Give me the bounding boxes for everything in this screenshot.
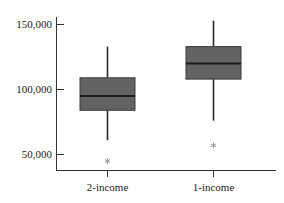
- box-plot-figure: 150,000 100,000 50,000: [0, 0, 284, 203]
- y-tick-label-100000: 100,000: [16, 83, 52, 95]
- box-body-2-income: [80, 78, 135, 111]
- plot-background: [0, 0, 284, 203]
- y-tick-label-150000: 150,000: [16, 18, 52, 30]
- y-tick-label-50000: 50,000: [22, 148, 53, 160]
- x-tick-label-2-income: 2-income: [87, 181, 129, 193]
- box-plot-canvas: 150,000 100,000 50,000: [0, 0, 284, 203]
- x-tick-label-1-income: 1-income: [193, 181, 235, 193]
